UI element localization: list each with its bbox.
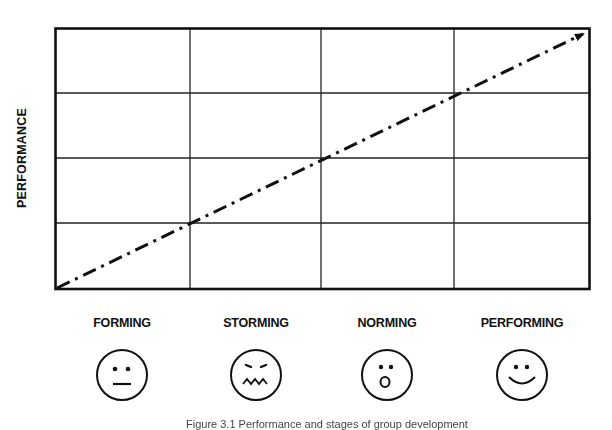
stage-label-forming: FORMING <box>52 316 192 330</box>
stage-label-storming: STORMING <box>186 316 326 330</box>
figure-caption: Figure 3.1 Performance and stages of gro… <box>186 418 468 430</box>
y-axis-label: PERFORMANCE <box>15 108 29 208</box>
stage-label-norming: NORMING <box>317 316 457 330</box>
happy-face-icon <box>495 348 549 402</box>
angry-face-icon <box>229 348 283 402</box>
neutral-face-icon <box>95 348 149 402</box>
stage-label-performing: PERFORMING <box>452 316 592 330</box>
surprised-face-icon <box>360 348 414 402</box>
performance-trend-arrow <box>57 34 583 288</box>
